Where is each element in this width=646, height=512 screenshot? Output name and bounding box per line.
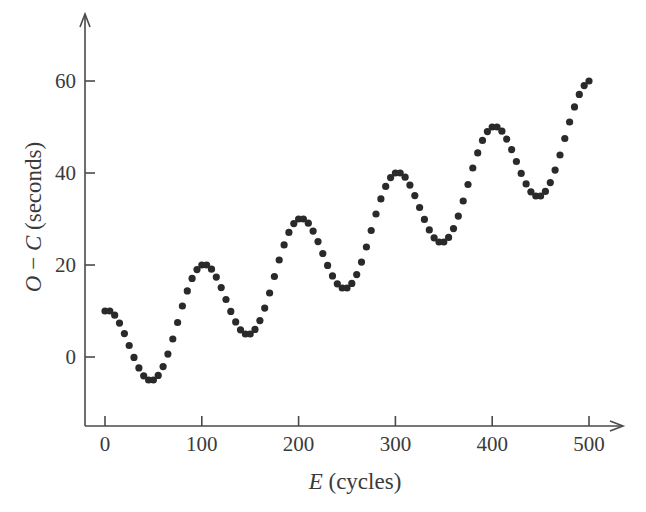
data-point — [314, 238, 321, 245]
data-point — [469, 164, 476, 171]
x-ticks: 0100200300400500 — [100, 416, 605, 456]
x-tick-label: 300 — [380, 432, 412, 456]
data-point — [271, 273, 278, 280]
data-point — [576, 91, 583, 98]
data-point — [556, 151, 563, 158]
data-point — [130, 354, 137, 361]
data-point — [111, 312, 118, 319]
data-point — [324, 262, 331, 269]
x-tick-label: 500 — [573, 432, 605, 456]
data-point — [372, 210, 379, 217]
data-point — [353, 271, 360, 278]
data-point — [377, 195, 384, 202]
x-axis-label-unit: (cycles) — [323, 469, 402, 494]
y-tick-label: 0 — [66, 345, 77, 369]
x-tick-label: 400 — [476, 432, 508, 456]
data-point — [406, 182, 413, 189]
data-point — [329, 272, 336, 279]
data-point — [310, 228, 317, 235]
y-tick-label: 60 — [55, 69, 76, 93]
data-point — [305, 220, 312, 227]
data-point — [508, 146, 515, 153]
y-tick-label: 40 — [55, 161, 76, 185]
data-point — [276, 256, 283, 263]
data-point — [566, 118, 573, 125]
data-point — [189, 275, 196, 282]
data-point — [169, 335, 176, 342]
data-series-oc — [101, 77, 592, 383]
data-point — [319, 250, 326, 257]
data-point — [513, 158, 520, 165]
data-point — [179, 302, 186, 309]
data-point — [585, 77, 592, 84]
data-point — [251, 326, 258, 333]
data-point — [160, 363, 167, 370]
data-point — [547, 179, 554, 186]
data-point — [402, 174, 409, 181]
data-point — [218, 284, 225, 291]
data-point — [281, 241, 288, 248]
data-point — [155, 372, 162, 379]
x-tick-label: 0 — [100, 432, 111, 456]
data-point — [285, 229, 292, 236]
data-point — [450, 225, 457, 232]
data-point — [184, 287, 191, 294]
data-point — [416, 204, 423, 211]
data-point — [421, 216, 428, 223]
data-point — [126, 342, 133, 349]
x-axis-label-var: E — [308, 469, 323, 494]
data-point — [266, 289, 273, 296]
x-axis-label: E (cycles) — [308, 469, 402, 494]
data-point — [518, 170, 525, 177]
x-tick-label: 200 — [283, 432, 315, 456]
data-point — [523, 180, 530, 187]
data-point — [358, 259, 365, 266]
data-point — [222, 296, 229, 303]
data-point — [213, 274, 220, 281]
data-point — [363, 243, 370, 250]
x-tick-label: 100 — [186, 432, 218, 456]
data-point — [503, 136, 510, 143]
y-ticks: 0204060 — [55, 69, 95, 369]
y-tick-label: 20 — [55, 253, 76, 277]
data-point — [348, 280, 355, 287]
data-point — [571, 103, 578, 110]
data-point — [135, 364, 142, 371]
data-point — [261, 305, 268, 312]
data-point — [479, 137, 486, 144]
data-point — [460, 197, 467, 204]
data-point — [256, 317, 263, 324]
data-point — [455, 213, 462, 220]
y-axis-label-var-c: C — [21, 235, 46, 251]
y-axis-label-minus: − — [21, 251, 46, 275]
data-point — [411, 192, 418, 199]
data-point — [464, 181, 471, 188]
data-point — [227, 308, 234, 315]
y-axis-label-var-o: O — [21, 275, 46, 292]
data-point — [474, 149, 481, 156]
data-point — [498, 128, 505, 135]
data-point — [232, 318, 239, 325]
data-point — [208, 266, 215, 273]
data-point — [552, 167, 559, 174]
y-axis-label-unit: (seconds) — [21, 142, 46, 236]
data-point — [445, 234, 452, 241]
data-point — [542, 188, 549, 195]
data-point — [561, 135, 568, 142]
data-point — [164, 351, 171, 358]
data-point — [368, 227, 375, 234]
y-axis-label: O − C (seconds) — [21, 142, 46, 292]
oc-diagram-chart: 0100200300400500 0204060 E (cycles) O − … — [0, 0, 646, 512]
data-point — [174, 319, 181, 326]
data-point — [426, 226, 433, 233]
data-point — [382, 183, 389, 190]
data-point — [121, 330, 128, 337]
data-point — [116, 320, 123, 327]
